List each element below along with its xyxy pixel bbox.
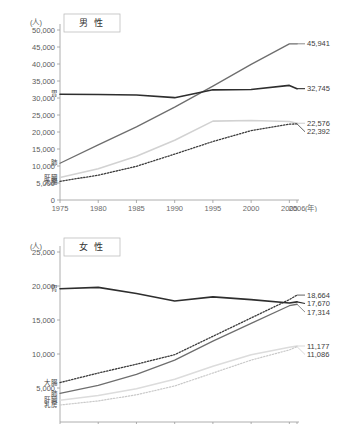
plot-male: (人)男 性05,00010,00015,00020,00025,00030,0… [0, 0, 355, 212]
series-line-female-肺 [60, 304, 297, 393]
figure-root: (人)男 性05,00010,00015,00020,00025,00030,0… [0, 0, 355, 424]
x-axis-unit-label: (年) [305, 203, 317, 212]
series-start-label-female-胃: 胃 [51, 285, 58, 293]
plot-female: (人)女 性5,00010,00015,00020,00025,000大腸胃肺肝… [0, 212, 355, 424]
series-end-value-female-肺: 17,314 [307, 308, 330, 317]
x-tick-label: 2006 [289, 204, 306, 212]
series-line-male-胃 [60, 85, 297, 97]
x-tick-label: 1975 [52, 204, 69, 212]
y-tick-label: 25,000 [32, 111, 55, 120]
y-tick-label: 45,000 [32, 43, 55, 52]
leader-line-female-乳房 [297, 347, 305, 355]
series-line-male-大腸 [60, 124, 297, 181]
series-end-value-male-大腸: 22,392 [307, 127, 330, 136]
series-end-value-male-肺: 45,941 [307, 39, 330, 48]
chart-title-male: 男 性 [79, 17, 106, 28]
chart-female: (人)女 性5,00010,00015,00020,00025,000大腸胃肺肝… [0, 212, 355, 424]
series-start-label-male-肺: 肺 [51, 159, 58, 167]
y-tick-label: 15,000 [32, 145, 55, 154]
series-start-label-female-乳房: 乳房 [44, 400, 58, 409]
leader-line-female-肺 [297, 304, 305, 312]
y-tick-label: 40,000 [32, 60, 55, 69]
y-tick-label: 15,000 [32, 316, 55, 325]
x-tick-label: 1995 [205, 204, 222, 212]
series-line-female-大腸 [60, 295, 297, 382]
series-line-male-肺 [60, 44, 297, 163]
y-tick-label: 10,000 [32, 350, 55, 359]
chart-title-female: 女 性 [79, 241, 106, 252]
y-tick-label: 35,000 [32, 77, 55, 86]
series-end-value-female-乳房: 11,086 [307, 350, 329, 359]
y-tick-label: 25,000 [32, 248, 55, 257]
series-start-label-male-胃: 胃 [51, 90, 58, 98]
series-start-label-female-大腸: 大腸 [44, 378, 58, 387]
y-tick-label: 50,000 [32, 26, 55, 35]
series-start-label-male-大腸: 大腸 [44, 177, 58, 186]
y-tick-label: 20,000 [32, 128, 55, 137]
x-tick-label: 1985 [128, 204, 145, 212]
series-end-value-male-胃: 32,745 [307, 84, 330, 93]
chart-male: (人)男 性05,00010,00015,00020,00025,00030,0… [0, 0, 355, 212]
x-tick-label: 2000 [243, 204, 260, 212]
leader-line-male-大腸 [297, 124, 305, 132]
x-tick-label: 1980 [90, 204, 107, 212]
x-tick-label: 1990 [166, 204, 183, 212]
leader-line-female-胃 [297, 302, 305, 304]
series-line-female-胃 [60, 287, 297, 303]
